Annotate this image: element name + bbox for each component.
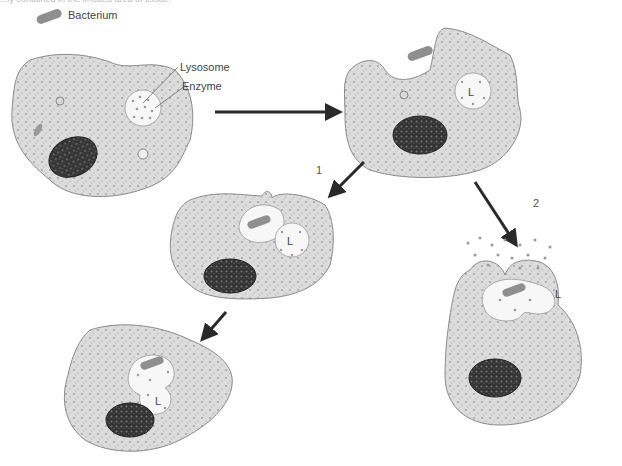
- cell-1: [12, 54, 193, 196]
- step-2-label: 2: [533, 198, 539, 209]
- nucleus: [204, 259, 256, 293]
- enzyme-label: Enzyme: [182, 81, 222, 92]
- svg-text:L: L: [555, 288, 561, 300]
- cell-2: L: [344, 28, 520, 178]
- nucleus: [393, 116, 447, 154]
- cell-3: L: [170, 192, 333, 299]
- svg-text:L: L: [468, 86, 474, 98]
- bacterium-label: Bacterium: [68, 10, 118, 21]
- arrow-to-digest: [206, 312, 226, 335]
- svg-text:L: L: [287, 235, 293, 247]
- arrow-path-2: [475, 182, 513, 240]
- nucleus: [469, 359, 521, 397]
- phagocytosis-diagram: L L L: [0, 0, 622, 466]
- lysosome-label: Lysosome: [180, 62, 230, 73]
- lysosome: [125, 90, 161, 126]
- nucleus: [106, 403, 154, 437]
- arrow-path-1: [334, 162, 364, 192]
- svg-text:L: L: [155, 395, 161, 407]
- cell-5: L: [445, 237, 581, 426]
- bacterium-icon: [35, 8, 63, 25]
- step-1-label: 1: [316, 165, 322, 176]
- cell-4: L: [64, 325, 232, 451]
